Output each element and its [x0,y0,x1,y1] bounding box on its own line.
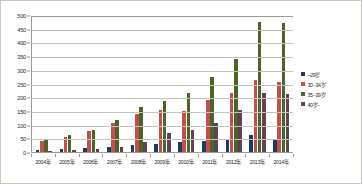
bar [131,145,135,152]
gridline [32,112,293,113]
legend-swatch [301,102,305,106]
bar [262,93,266,152]
bar [111,123,115,152]
y-tick-mark [27,57,30,58]
legend-item[interactable]: 35−39岁 [301,89,359,99]
y-tick-label: 50 [20,136,26,142]
bar [154,144,158,152]
x-tick-mark [269,154,270,157]
legend-swatch [301,72,305,76]
bar [238,110,242,152]
bar [159,110,163,152]
gridline [32,126,293,127]
chart-legend: ~29岁30−34岁35−39岁40岁− [301,69,359,109]
x-axis: 2004年2005年2006年2007年2008年2009年2010年2011年… [31,154,293,172]
x-tick-mark [79,154,80,157]
bar [273,140,277,152]
y-tick-mark [27,84,30,85]
bar [178,142,182,152]
x-tick-mark [174,154,175,157]
gridline [32,43,293,44]
x-tick-label: 2010年 [174,154,198,172]
bar [68,135,72,152]
y-tick-mark [27,29,30,30]
bar [226,140,230,152]
gridline [32,16,293,17]
gridline [32,57,293,58]
legend-label: 40岁− [308,101,321,108]
x-tick-mark [293,154,294,157]
legend-label: 30−34岁 [308,81,326,88]
bar [115,120,119,152]
bar [214,123,218,152]
bar [286,94,290,152]
legend-item[interactable]: 30−34岁 [301,79,359,89]
y-tick-label: 350 [17,54,26,60]
x-tick-mark [245,154,246,157]
bar [139,107,143,152]
bar [96,149,100,152]
bar [282,23,286,152]
x-tick-label: 2005年 [55,154,79,172]
bar [83,148,87,152]
x-tick-label: 2013年 [245,154,269,172]
bar [36,150,40,152]
bar [92,130,96,152]
y-tick-label: 300 [17,68,26,74]
plot-area [31,16,293,153]
x-tick-label: 2014年 [269,154,293,172]
bar [107,147,111,152]
x-tick-mark [55,154,56,157]
bar [210,77,214,152]
x-tick-label: 2008年 [126,154,150,172]
gridline [32,85,293,86]
gridline [32,139,293,140]
bar [48,151,52,152]
y-tick-label: 500 [17,13,26,19]
gridline [32,98,293,99]
x-tick-label: 2006年 [79,154,103,172]
bar [202,141,206,152]
bar [254,80,258,152]
bar [44,140,48,152]
bar [163,101,167,152]
legend-item[interactable]: ~29岁 [301,69,359,79]
bar [258,22,262,152]
bar [72,150,76,152]
y-tick-mark [27,16,30,17]
x-tick-label: 2009年 [150,154,174,172]
y-tick-mark [27,125,30,126]
y-tick-label: 100 [17,123,26,129]
bar [187,93,191,152]
x-tick-mark [198,154,199,157]
legend-item[interactable]: 40岁− [301,99,359,109]
bar [143,142,147,152]
x-tick-mark [102,154,103,157]
y-axis: 050100150200250300350400450500 [1,16,29,153]
bar [230,93,234,152]
legend-label: 35−39岁 [308,91,326,98]
y-tick-mark [27,43,30,44]
bar [277,82,281,152]
y-tick-mark [27,70,30,71]
x-tick-label: 2007年 [102,154,126,172]
bar [249,135,253,152]
y-tick-label: 250 [17,82,26,88]
gridline [32,71,293,72]
y-tick-mark [27,111,30,112]
bar [234,59,238,152]
bar [182,111,186,152]
y-tick-mark [27,98,30,99]
gridline [32,30,293,31]
x-tick-label: 2004年 [31,154,55,172]
legend-label: ~29岁 [308,71,321,78]
x-tick-label: 2012年 [222,154,246,172]
x-tick-label: 2011年 [198,154,222,172]
y-tick-label: 400 [17,40,26,46]
y-tick-label: 0 [23,150,26,156]
bar [40,141,44,153]
bar [167,133,171,152]
bar [120,147,124,152]
y-tick-label: 200 [17,95,26,101]
bar [60,149,64,152]
